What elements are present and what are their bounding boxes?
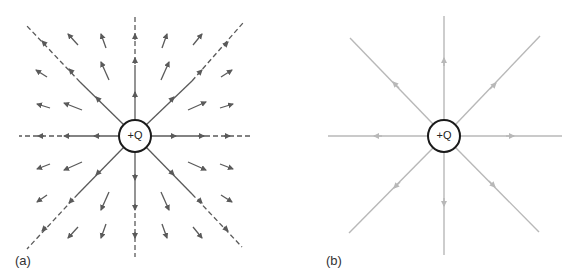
panel-label-a: (a) (15, 253, 31, 268)
field-diagram (0, 0, 577, 278)
charge-label-b: +Q (427, 129, 461, 141)
charge-label-a: +Q (118, 129, 152, 141)
panel-label-b: (b) (326, 253, 342, 268)
